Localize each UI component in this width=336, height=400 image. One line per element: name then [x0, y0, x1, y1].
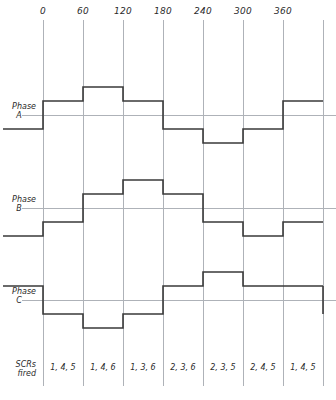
scr-fired-cell: 1, 4, 5 [283, 363, 323, 372]
label-phase-b-line2: B [2, 204, 36, 213]
scr-fired-cell: 1, 3, 6 [123, 363, 163, 372]
waveform-diagram: 060120180240300360 PhaseAPhaseBPhaseC SC… [0, 0, 336, 400]
label-phase-c-line2: C [2, 296, 36, 305]
scr-fired-cell: 2, 3, 5 [203, 363, 243, 372]
label-phase-c-line1: Phase [2, 287, 36, 296]
axis-tick-300: 300 [223, 6, 263, 16]
scr-fired-label: SCRsfired [2, 360, 36, 378]
diagram-canvas [0, 0, 336, 400]
axis-tick-60: 60 [63, 6, 103, 16]
scr-fired-cell: 2, 4, 5 [243, 363, 283, 372]
label-phase-b: PhaseB [2, 195, 36, 213]
label-phase-a-line2: A [2, 111, 36, 120]
scr-fired-label-line1: SCRs [2, 360, 36, 369]
axis-tick-240: 240 [183, 6, 223, 16]
label-phase-a: PhaseA [2, 102, 36, 120]
axis-tick-360: 360 [263, 6, 303, 16]
scr-fired-cell: 1, 4, 5 [43, 363, 83, 372]
axis-tick-0: 0 [23, 6, 63, 16]
label-phase-c: PhaseC [2, 287, 36, 305]
scr-fired-cell: 1, 4, 6 [83, 363, 123, 372]
axis-tick-120: 120 [103, 6, 143, 16]
gridlines-group [44, 20, 324, 386]
label-phase-b-line1: Phase [2, 195, 36, 204]
scr-fired-label-line2: fired [2, 369, 36, 378]
zero-axis-group [22, 116, 336, 301]
scr-fired-cell: 2, 3, 6 [163, 363, 203, 372]
label-phase-a-line1: Phase [2, 102, 36, 111]
axis-tick-180: 180 [143, 6, 183, 16]
